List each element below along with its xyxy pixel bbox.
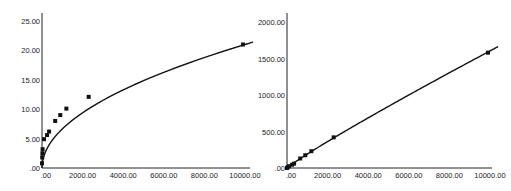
- left-y-tick-labels: .005.0010.0015.0020.0025.00: [21, 17, 40, 173]
- y-tick-label: 15.00: [21, 76, 40, 85]
- x-tick-label: 6000.00: [150, 171, 177, 180]
- data-point: [309, 149, 313, 153]
- x-tick-label: 2000.00: [69, 171, 96, 180]
- x-tick-label: 4000.00: [355, 171, 382, 180]
- y-tick-label: 20.00: [21, 46, 40, 55]
- y-tick-label: 2000.00: [258, 18, 285, 27]
- data-point: [53, 119, 57, 123]
- data-point: [41, 147, 45, 151]
- data-point: [298, 157, 302, 161]
- data-point: [58, 113, 62, 117]
- right-x-tick-labels: .002000.004000.006000.008000.0010000.00: [286, 171, 506, 180]
- y-tick-label: 10.00: [21, 105, 40, 114]
- x-tick-label: 2000.00: [314, 171, 341, 180]
- data-point: [40, 161, 44, 165]
- right-data-points: [285, 51, 490, 170]
- right-y-tick-labels: .00500.001000.001500.002000.00: [258, 18, 285, 173]
- charts-canvas: .005.0010.0015.0020.0025.00 .002000.0040…: [0, 0, 511, 191]
- y-tick-label: 5.00: [25, 135, 40, 144]
- data-point: [303, 153, 307, 157]
- data-point: [241, 43, 245, 47]
- y-tick-label: 25.00: [21, 17, 40, 26]
- data-point: [47, 130, 51, 134]
- x-tick-label: 4000.00: [110, 171, 137, 180]
- x-tick-label: 6000.00: [395, 171, 422, 180]
- x-tick-label: .00: [41, 171, 51, 180]
- left-chart: .005.0010.0015.0020.0025.00 .002000.0040…: [21, 13, 260, 180]
- y-tick-label: 1500.00: [258, 55, 285, 64]
- y-tick-label: .00: [30, 164, 40, 173]
- data-point: [45, 133, 49, 137]
- data-point: [42, 137, 46, 141]
- data-point: [40, 155, 44, 159]
- y-tick-label: 1000.00: [258, 91, 285, 100]
- x-tick-label: 8000.00: [191, 171, 218, 180]
- data-point: [64, 107, 68, 111]
- left-x-tick-labels: .002000.004000.006000.008000.0010000.00: [41, 171, 261, 180]
- y-tick-label: 500.00: [262, 128, 285, 137]
- y-tick-label: .00: [275, 164, 285, 173]
- right-fit-curve: [287, 47, 498, 168]
- data-point: [292, 162, 296, 166]
- x-tick-label: 10000.00: [474, 171, 505, 180]
- left-fit-curve: [42, 42, 253, 168]
- right-chart: .00500.001000.001500.002000.00 .002000.0…: [258, 13, 506, 180]
- x-tick-label: 8000.00: [436, 171, 463, 180]
- data-point: [332, 135, 336, 139]
- left-data-points: [40, 43, 245, 166]
- data-point: [40, 151, 44, 155]
- data-point: [87, 95, 91, 99]
- data-point: [486, 51, 490, 55]
- x-tick-label: .00: [286, 171, 296, 180]
- x-tick-label: 10000.00: [229, 171, 260, 180]
